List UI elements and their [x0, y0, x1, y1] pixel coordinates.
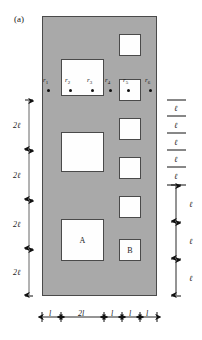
left-dimension-group [25, 100, 33, 296]
right-dimension-group [167, 100, 186, 296]
bottom-dimension-group [42, 312, 157, 322]
dimension-lines-overlay [0, 0, 202, 340]
figure-panel-a: (a) AB r1r2r3r4r5r6 2ℓ2ℓ2ℓ2ℓℓℓℓℓℓℓℓℓl2ll… [0, 0, 202, 340]
